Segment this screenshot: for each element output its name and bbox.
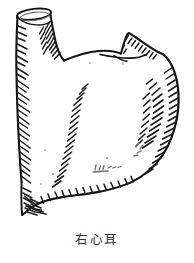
hatching-stump-right [40,22,61,59]
hatching-right-margin [145,68,178,174]
hatching-inner-right-band [136,79,164,148]
cut-opening-rim [16,7,51,25]
hatching-central-ridge [53,84,89,187]
interior-texture-marks [93,143,143,172]
figure-page: 右心耳 [0,0,194,263]
anatomical-illustration [0,0,194,263]
figure-caption: 右心耳 [0,232,194,248]
